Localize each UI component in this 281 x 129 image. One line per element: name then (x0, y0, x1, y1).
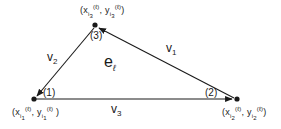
edge-v2 (37, 28, 94, 96)
vertex-1-coordinates: (xi1(ℓ), yi1(ℓ) ) (12, 106, 59, 121)
vertex-3-local-number: (3) (90, 31, 102, 41)
vertex-2-local-number: (2) (205, 88, 217, 98)
vertex-1-local-number: (1) (43, 88, 55, 98)
edge-v1-label: v1 (166, 42, 176, 57)
edge-v2-label: v2 (47, 51, 57, 66)
vertex-node-1 (31, 96, 36, 101)
vertex-node-3 (92, 22, 97, 27)
vertex-3-coordinates: (xi3(ℓ), yi3(ℓ)) (80, 4, 125, 19)
vertex-2-coordinates: (xi2(ℓ), yi2(ℓ)) (222, 106, 267, 121)
vertex-node-2 (234, 96, 239, 101)
edge-v3-label: v3 (111, 103, 121, 118)
triangle-element-diagram: (xi3(ℓ), yi3(ℓ)) (3) (xi1(ℓ), yi1(ℓ) ) (… (0, 0, 281, 129)
element-label: eℓ (104, 54, 116, 73)
